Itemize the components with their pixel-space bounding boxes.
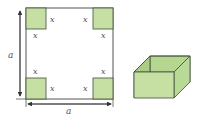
corner-square-top-left xyxy=(26,8,46,29)
vertical-dimension-arrow xyxy=(16,11,26,99)
x-label: x xyxy=(83,84,88,93)
corner-square-top-right xyxy=(93,8,113,29)
corner-square-bottom-left xyxy=(26,78,46,99)
bottom-label-a: a xyxy=(66,106,71,116)
x-label: x xyxy=(50,84,55,93)
x-label: x xyxy=(50,15,55,24)
x-label: x xyxy=(101,31,106,40)
open-box xyxy=(134,56,190,98)
x-label: x xyxy=(83,15,88,24)
diagram: x x x x x x x x a a xyxy=(0,0,201,116)
x-label: x xyxy=(33,31,38,40)
x-label: x xyxy=(33,67,38,76)
x-label: x xyxy=(101,67,106,76)
side-label-a: a xyxy=(8,50,13,60)
corner-square-bottom-right xyxy=(93,78,113,99)
